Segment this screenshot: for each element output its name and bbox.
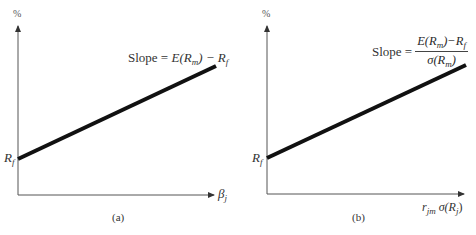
slope-denominator: σ(Rm) <box>427 52 456 69</box>
den-main: σ(R <box>427 53 445 67</box>
intercept-symbol: R <box>252 150 260 165</box>
slope-numerator: E(Rm)−Rf <box>415 34 468 52</box>
slope-expr-tail: ) − R <box>198 50 226 65</box>
num-tail-sub: f <box>463 40 466 50</box>
panel-a-y-axis-label: % <box>13 8 21 19</box>
panel-a-caption: (a) <box>112 211 124 223</box>
beta-subscript: j <box>224 193 227 203</box>
panel-a-sml-line <box>18 66 216 159</box>
intercept-subscript: f <box>260 157 263 167</box>
panel-b-sml-line <box>267 65 466 158</box>
num-main: E(R <box>417 34 436 48</box>
panel-a-intercept-label: Rf <box>4 150 14 167</box>
intercept-symbol: R <box>4 150 12 165</box>
panel-a-x-axis-label: βj <box>218 186 227 203</box>
slope-prefix: Slope = <box>128 50 171 65</box>
sigma-close: ) <box>458 200 462 214</box>
panel-b-y-axis-label: % <box>262 8 270 19</box>
panel-a-slope-label: Slope = E(Rm) − Rf <box>128 50 228 67</box>
intercept-subscript: f <box>12 157 15 167</box>
slope-expr-tail-sub: f <box>226 57 229 67</box>
panel-b-slope-label: Slope = E(Rm)−Rf σ(Rm) <box>372 34 468 69</box>
num-tail: )−R <box>443 34 463 48</box>
r-subscript: jm <box>427 206 436 216</box>
den-tail: ) <box>452 53 456 67</box>
slope-expr: E(R <box>171 50 191 65</box>
slope-prefix: Slope = <box>372 44 412 60</box>
panel-b-x-axis-label: rjm σ(Rj) <box>422 200 462 216</box>
panel-b-intercept-label: Rf <box>252 150 262 167</box>
slope-fraction: E(Rm)−Rf σ(Rm) <box>415 34 468 69</box>
panel-b-caption: (b) <box>352 211 365 223</box>
sigma-expr: σ(R <box>436 200 456 214</box>
